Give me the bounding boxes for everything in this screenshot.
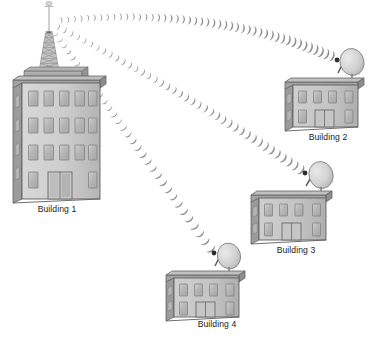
building-1-entrance-door[interactable] (48, 172, 72, 199)
building-4-label: Building 4 (198, 319, 237, 329)
building-4-entrance-door[interactable] (196, 302, 215, 317)
building-3-side-wall (251, 198, 259, 244)
roof-slab-top (13, 76, 106, 80)
building-3-roof-top (251, 191, 332, 195)
building-3-entrance-door[interactable] (282, 223, 301, 240)
building-2-label: Building 2 (309, 132, 348, 142)
building-2-entrance-door[interactable] (315, 110, 334, 127)
diagram-canvas: Building 1 (0, 0, 376, 340)
building-1-label: Building 1 (38, 204, 77, 214)
building-2-side-wall (285, 85, 293, 131)
building-3-label: Building 3 (277, 245, 316, 255)
building-4-side-wall (166, 278, 174, 321)
network-diagram-svg: Building 1 (0, 0, 376, 340)
roof-penthouse-top (24, 67, 88, 71)
building-2-roof-top (285, 78, 364, 82)
building-4-roof-top (166, 271, 245, 275)
